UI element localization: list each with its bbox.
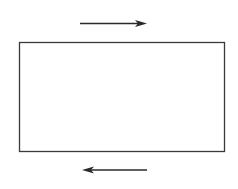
diagram-canvas <box>0 0 238 189</box>
rectangle-box <box>20 43 225 152</box>
top-arrow-right <box>80 20 147 27</box>
bottom-arrow-left <box>82 167 147 174</box>
